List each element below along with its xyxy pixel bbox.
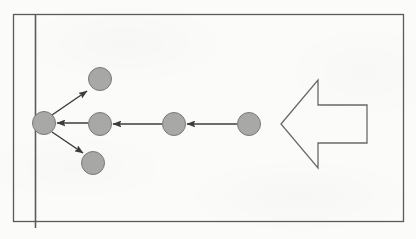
scattered-down — [82, 152, 105, 175]
paper-background — [0, 0, 416, 239]
diagram-canvas — [0, 0, 416, 239]
wall-particle — [33, 112, 56, 135]
incoming-far — [238, 113, 261, 136]
scattered-right — [89, 113, 112, 136]
scattering-diagram-figure — [0, 0, 416, 239]
scattered-up — [89, 68, 112, 91]
incoming-middle — [163, 113, 186, 136]
